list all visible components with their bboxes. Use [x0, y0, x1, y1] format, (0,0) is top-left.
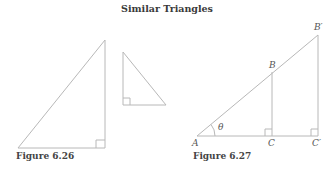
- label-a: A: [192, 138, 199, 148]
- figure-6-26-large-triangle: [18, 40, 105, 148]
- label-b-prime: B′: [314, 22, 323, 32]
- label-theta: θ: [218, 122, 223, 132]
- figure-6-26-small-triangle: [123, 52, 166, 105]
- figure-6-27-caption: Figure 6.27: [193, 151, 251, 161]
- figure-6-27-triangles: [197, 35, 318, 136]
- label-c-prime: C′: [312, 138, 321, 148]
- label-b: B: [269, 60, 276, 70]
- theta-angle-arc: [211, 125, 215, 137]
- figure-6-26-caption: Figure 6.26: [16, 151, 74, 161]
- label-c: C: [268, 138, 275, 148]
- diagram-canvas: [0, 0, 334, 176]
